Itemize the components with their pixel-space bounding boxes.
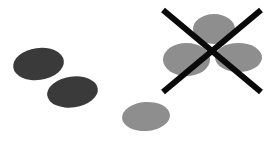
ellipse-diagram-svg: [0, 0, 269, 143]
figure-canvas: [0, 0, 269, 143]
